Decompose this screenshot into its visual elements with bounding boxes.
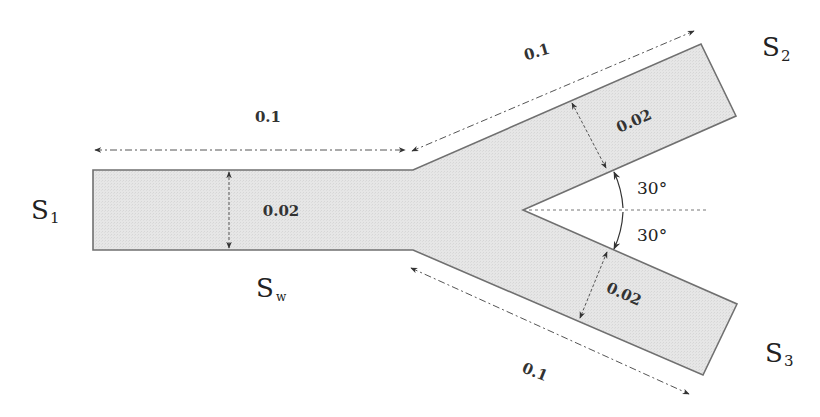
svg-text:S: S: [765, 338, 783, 368]
svg-text:w: w: [276, 290, 287, 304]
angle-arc-lower: [614, 212, 623, 249]
svg-text:S: S: [31, 195, 49, 225]
angle-arc-upper: [614, 172, 623, 208]
lower-branch-length-label: 0.1: [520, 359, 551, 385]
inlet-width-label: 0.02: [263, 202, 300, 220]
upper-branch-length-label: 0.1: [522, 40, 552, 64]
inlet-boundary-label: S 1: [31, 195, 60, 227]
svg-text:S: S: [762, 32, 780, 62]
lower-angle-label: 30°: [637, 225, 667, 245]
upper-outlet-boundary-label: S 2: [762, 32, 791, 65]
svg-text:2: 2: [781, 47, 791, 65]
wall-boundary-label: S w: [256, 273, 287, 304]
svg-text:S: S: [256, 273, 274, 303]
svg-text:1: 1: [50, 209, 60, 227]
inlet-length-label: 0.1: [255, 108, 281, 126]
svg-text:3: 3: [784, 352, 794, 370]
lower-outlet-boundary-label: S 3: [765, 338, 794, 370]
channel-diagram: 0.1 0.02 0.1 0.02 0.02 0.1 30° 30° S 1 S…: [0, 0, 820, 417]
channel-domain: [93, 44, 737, 375]
upper-angle-label: 30°: [637, 178, 667, 198]
